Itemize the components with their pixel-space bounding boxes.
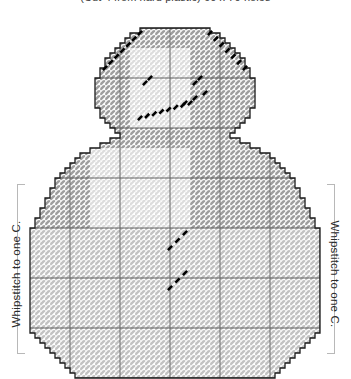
whipstitch-note-left: Whipstitch to one C. — [10, 189, 22, 359]
chart-fill-layer — [0, 0, 351, 379]
chart-canvas — [0, 0, 351, 379]
minor-grid — [0, 0, 351, 379]
whipstitch-note-right: Whipstitch to one C. — [329, 189, 341, 359]
stitch-chart — [0, 0, 351, 379]
